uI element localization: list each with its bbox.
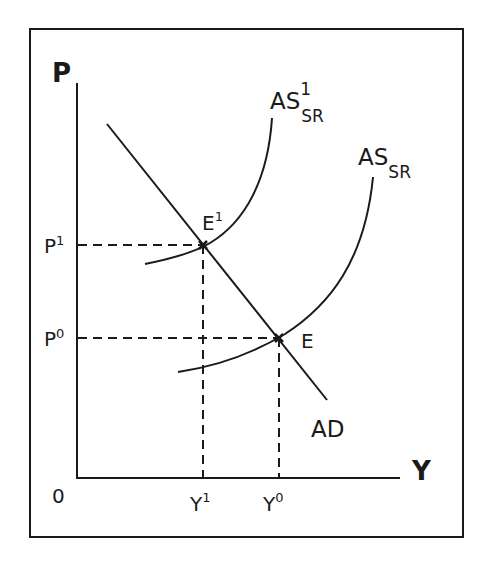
- x-axis-label: Y: [411, 456, 432, 486]
- as-sr-shifted-curve: [145, 118, 272, 264]
- ad-curve: [107, 124, 327, 400]
- as-sr-shifted-label: AS1SR: [270, 79, 324, 126]
- origin-label: 0: [52, 484, 65, 508]
- as-ad-diagram: P Y 0 P1 P0 Y1 Y0 E1 E AS1SR ASSR AD: [0, 0, 488, 569]
- frame: [30, 29, 463, 537]
- p0-label: P0: [44, 326, 64, 351]
- y1-label: Y1: [189, 490, 211, 516]
- ad-label: AD: [311, 416, 344, 442]
- as-sr-label: ASSR: [358, 144, 411, 182]
- e-label: E: [301, 329, 314, 353]
- y-axis-label: P: [52, 58, 71, 88]
- p1-label: P1: [44, 233, 64, 258]
- y0-label: Y0: [262, 490, 284, 516]
- e1-label: E1: [202, 209, 223, 235]
- as-sr-curve: [178, 177, 373, 372]
